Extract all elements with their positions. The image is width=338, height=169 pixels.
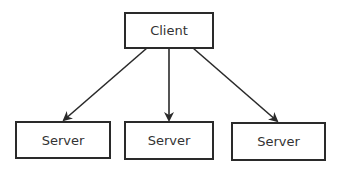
- edge-client-server3: [193, 48, 277, 121]
- server-node-1-label: Server: [42, 133, 85, 148]
- server-node-3-label: Server: [257, 134, 300, 149]
- server-node-3: Server: [231, 122, 326, 161]
- server-node-1: Server: [15, 121, 111, 159]
- client-node-label: Client: [150, 23, 188, 38]
- edge-client-server1: [64, 48, 147, 120]
- client-node: Client: [124, 12, 214, 49]
- server-node-2-label: Server: [148, 133, 191, 148]
- server-node-2: Server: [124, 121, 214, 160]
